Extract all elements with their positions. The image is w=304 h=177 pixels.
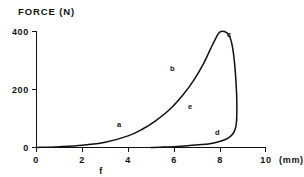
y-tick-label-0: 0: [23, 143, 29, 153]
x-axis-unit: (mm): [279, 155, 304, 165]
y-axis-title: FORCE (N): [18, 6, 75, 17]
x-tick-label-0: 0: [33, 155, 39, 165]
x-tick-label-6: 6: [171, 155, 177, 165]
force-displacement-chart: FORCE (N) 400 200 0 0 2 4 6 8 10 (mm) f: [0, 0, 304, 177]
x-axis-title: f: [99, 166, 103, 176]
curve-label-c: c: [227, 30, 231, 39]
x-tick-label-2: 2: [79, 155, 85, 165]
unloading-curve: [151, 120, 237, 148]
curve-label-e: e: [188, 102, 192, 111]
loading-curve: [37, 31, 237, 147]
x-tick-label-4: 4: [125, 155, 131, 165]
curve-label-d: d: [215, 128, 220, 137]
x-tick-label-8: 8: [217, 155, 223, 165]
y-tick-label-400: 400: [12, 27, 29, 37]
x-tick-label-10: 10: [260, 155, 271, 165]
chart-canvas: FORCE (N) 400 200 0 0 2 4 6 8 10 (mm) f: [0, 0, 304, 177]
y-tick-label-200: 200: [12, 85, 29, 95]
curve-label-b: b: [170, 64, 175, 73]
curve-label-a: a: [117, 120, 122, 129]
